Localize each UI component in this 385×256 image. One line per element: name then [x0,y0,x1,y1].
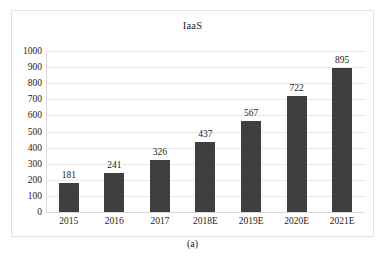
y-axis-tick-label: 800 [8,78,42,88]
y-axis-tick-label: 200 [8,175,42,185]
gridline [46,212,365,213]
bar-group[interactable]: 567 [228,51,274,212]
bar[interactable] [150,160,170,212]
bar-group[interactable]: 437 [183,51,229,212]
bar-value-label: 241 [107,160,121,171]
bar-value-label: 722 [290,83,304,94]
x-axis-tick-label: 2020E [274,215,320,228]
x-axis-tick-label: 2016 [92,215,138,228]
bar-group[interactable]: 722 [274,51,320,212]
y-axis-tick-label: 100 [8,191,42,201]
y-axis-tick-label: 900 [8,62,42,72]
plot-area: 181241326437567722895 [46,51,365,212]
y-axis-tick-label: 300 [8,159,42,169]
x-axis-tick-labels: 2015201620172018E2019E2020E2021E [46,215,365,231]
bar-value-label: 181 [62,170,76,181]
bar-group[interactable]: 241 [92,51,138,212]
bar[interactable] [195,142,215,212]
bar-value-label: 326 [153,147,167,158]
x-axis-tick-label: 2017 [137,215,183,228]
bar-group[interactable]: 895 [319,51,365,212]
figure-panel: IaaS 10009008007006005004003002001000 18… [0,0,385,256]
x-axis-tick-label: 2019E [228,215,274,228]
bar-value-label: 567 [244,108,258,119]
figure-caption: (a) [0,238,385,249]
chart-title: IaaS [0,20,385,31]
y-axis-tick-label: 1000 [8,46,42,56]
x-axis-tick-label: 2015 [46,215,92,228]
y-axis-tick-label: 0 [8,207,42,217]
bar[interactable] [287,96,307,212]
bar[interactable] [241,121,261,212]
bar[interactable] [332,68,352,212]
bar[interactable] [104,173,124,212]
y-axis-tick-label: 400 [8,143,42,153]
bar-value-label: 437 [198,129,212,140]
y-axis-tick-label: 600 [8,110,42,120]
bar-value-label: 895 [335,55,349,66]
bar-group[interactable]: 181 [46,51,92,212]
y-axis-tick-label: 500 [8,127,42,137]
bar-group[interactable]: 326 [137,51,183,212]
y-axis-tick-label: 700 [8,94,42,104]
bar[interactable] [59,183,79,212]
x-axis-tick-label: 2018E [183,215,229,228]
x-axis-tick-label: 2021E [319,215,365,228]
